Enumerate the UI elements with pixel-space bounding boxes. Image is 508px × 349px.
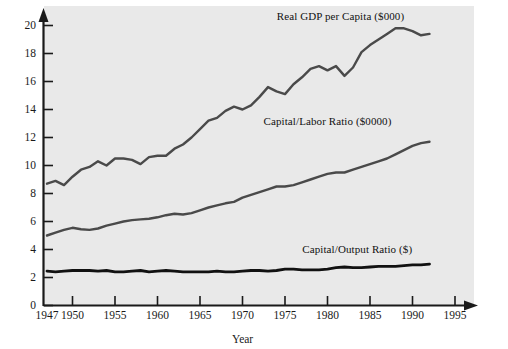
y-tick-label: 2 [6, 272, 36, 283]
capital-output-series-label: Capital/Output Ratio ($) [302, 243, 412, 255]
chart-canvas [0, 0, 508, 349]
y-axis-arrowhead [39, 8, 49, 22]
x-tick-label: 1970 [221, 310, 265, 321]
x-tick-label: 1955 [93, 310, 137, 321]
y-tick-label: 14 [6, 104, 36, 115]
y-tick-label: 4 [6, 244, 36, 255]
y-tick-label: 6 [6, 216, 36, 227]
y-tick-label: 0 [6, 300, 36, 311]
chart-figure: 02468101214161820 1947195019551960196519… [0, 0, 508, 349]
y-tick-label: 8 [6, 188, 36, 199]
y-tick-label: 10 [6, 160, 36, 171]
x-tick-label: 1985 [348, 310, 392, 321]
capital-labor-ratio-line [47, 142, 430, 236]
x-tick-label: 1960 [136, 310, 180, 321]
x-tick-label: 1975 [263, 310, 307, 321]
y-tick-label: 12 [6, 132, 36, 143]
x-tick-label: 1980 [306, 310, 350, 321]
y-tick-label: 18 [6, 48, 36, 59]
y-tick-label: 16 [6, 76, 36, 87]
data-series [47, 28, 430, 272]
gdp-series-label: Real GDP per Capita ($000) [277, 10, 404, 22]
x-tick-label: 1950 [51, 310, 95, 321]
x-tick-label: 1965 [178, 310, 222, 321]
y-tick-label: 20 [6, 20, 36, 31]
x-tick-label: 1990 [391, 310, 435, 321]
capital-labor-series-label: Capital/Labor Ratio ($0000) [264, 115, 392, 127]
x-axis-title: Year [232, 333, 253, 345]
gdp-per-capita-line [47, 28, 430, 185]
capital-output-ratio-line [47, 264, 430, 272]
x-tick-label: 1995 [433, 310, 477, 321]
